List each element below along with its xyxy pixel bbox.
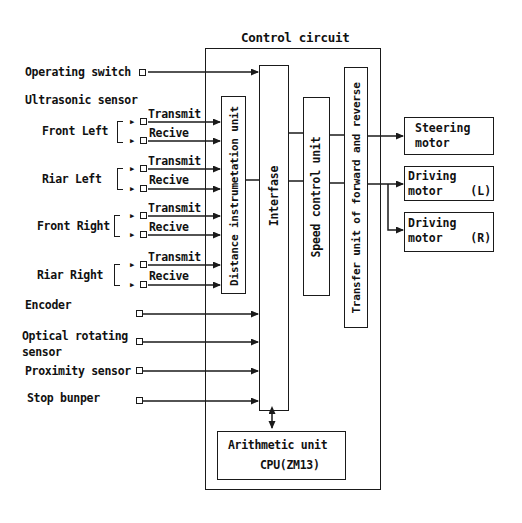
- riar-left-label: Riar Left: [42, 172, 102, 186]
- front-left-transmit-label: Transmit: [148, 107, 201, 121]
- proximity-sensor-terminal: [136, 367, 143, 374]
- riar-right-transmit-label: Transmit: [148, 250, 201, 264]
- driving-motor-right-label: Driving motor (R): [408, 216, 491, 246]
- encoder-label: Encoder: [25, 298, 71, 312]
- optical-sensor-terminal: [136, 338, 143, 345]
- encoder-terminal: [136, 310, 143, 317]
- riar-right-bracket: [114, 264, 120, 286]
- front-right-receive-arrow-icon: ▶: [130, 231, 134, 239]
- front-left-receive-label: Recive: [149, 126, 189, 140]
- stop-bumper-label: Stop bunper: [27, 391, 100, 405]
- front-right-receive-label: Recive: [149, 220, 189, 234]
- front-left-bracket: [117, 121, 123, 143]
- interface-unit: Interfase: [259, 65, 289, 411]
- steering-motor-box: Steering motor: [404, 117, 494, 155]
- driving-motor-left-label: Driving motor (L): [408, 169, 491, 199]
- front-right-transmit-terminal: [140, 212, 147, 219]
- front-left-receive-terminal: [140, 137, 147, 144]
- ultrasonic-sensor-header: Ultrasonic sensor: [25, 93, 138, 107]
- distance-unit-label: Distance instrumetation unit: [228, 106, 241, 286]
- distance-instrumentation-unit: Distance instrumetation unit: [221, 96, 246, 294]
- front-right-transmit-label: Transmit: [148, 201, 201, 215]
- speed-control-unit: Speed control unit: [303, 97, 330, 296]
- proximity-sensor-label: Proximity sensor: [25, 364, 131, 378]
- driving-motor-right-box: Driving motor (R): [404, 212, 494, 252]
- riar-left-transmit-terminal: [140, 165, 147, 172]
- riar-left-transmit-label: Transmit: [148, 154, 201, 168]
- steering-motor-label: Steering motor: [415, 121, 470, 151]
- riar-right-receive-terminal: [140, 281, 147, 288]
- transfer-unit-label: Transfer unit of forward and reverse: [350, 82, 363, 313]
- cpu-label: CPU(ZM13): [260, 458, 320, 472]
- front-left-label: Front Left: [42, 124, 108, 138]
- driving-motor-left-box: Driving motor (L): [404, 166, 494, 201]
- transfer-unit: Transfer unit of forward and reverse: [344, 67, 368, 328]
- stop-bumper-terminal: [136, 397, 143, 404]
- riar-right-transmit-arrow-icon: ▶: [130, 261, 134, 269]
- riar-right-label: Riar Right: [37, 268, 103, 282]
- interface-label: Interfase: [267, 166, 281, 227]
- front-right-receive-terminal: [140, 231, 147, 238]
- riar-left-transmit-arrow-icon: ▶: [130, 165, 134, 173]
- riar-right-transmit-terminal: [140, 261, 147, 268]
- optical-rotating-sensor-label: Optical rotating: [22, 329, 128, 343]
- riar-left-receive-label: Recive: [149, 173, 189, 187]
- arithmetic-unit-label: Arithmetic unit: [228, 438, 327, 452]
- front-left-receive-arrow-icon: ▶: [130, 137, 134, 145]
- speed-control-label: Speed control unit: [309, 136, 323, 257]
- arithmetic-unit: Arithmetic unit CPU(ZM13): [217, 431, 346, 480]
- riar-right-receive-label: Recive: [149, 269, 189, 283]
- operating-switch-label: Operating switch: [25, 65, 131, 79]
- front-right-label: Front Right: [37, 219, 110, 233]
- riar-left-receive-arrow-icon: ▶: [130, 185, 134, 193]
- front-left-transmit-arrow-icon: ▶: [130, 118, 134, 126]
- front-left-transmit-terminal: [140, 118, 147, 125]
- riar-left-bracket: [117, 168, 123, 190]
- front-right-bracket: [114, 215, 120, 237]
- riar-right-receive-arrow-icon: ▶: [130, 281, 134, 289]
- front-right-transmit-arrow-icon: ▶: [130, 212, 134, 220]
- operating-switch-terminal: [139, 69, 146, 76]
- optical-rotating-sensor-label-line2: sensor: [22, 345, 62, 359]
- riar-left-receive-terminal: [140, 185, 147, 192]
